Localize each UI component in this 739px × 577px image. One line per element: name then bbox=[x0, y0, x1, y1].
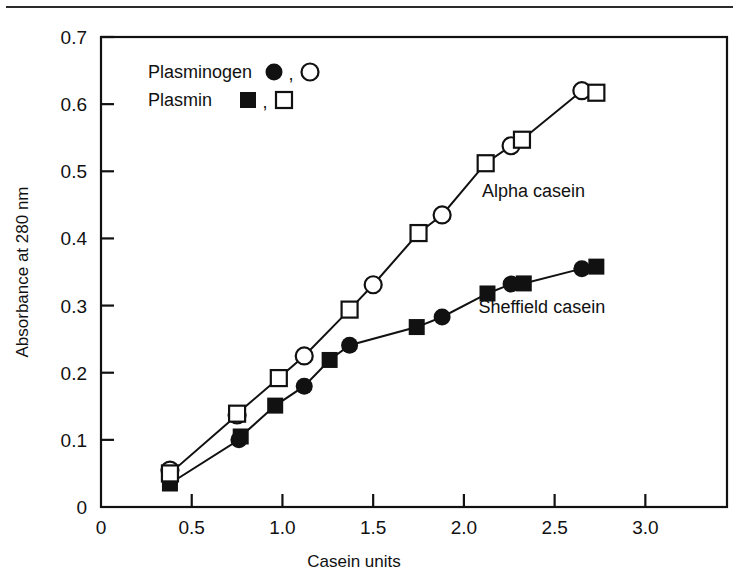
legend-label: Plasmin bbox=[148, 90, 212, 110]
legend-separator: , bbox=[288, 64, 293, 84]
y-tick-label: 0.5 bbox=[61, 161, 87, 182]
data-point bbox=[409, 319, 425, 335]
y-tick-label: 0.7 bbox=[61, 27, 87, 48]
legend-marker-open-square bbox=[276, 92, 292, 108]
series-markers-open-square bbox=[162, 85, 604, 482]
figure-container: 00.10.20.30.40.50.60.700.51.01.52.02.53.… bbox=[0, 0, 739, 577]
data-point bbox=[588, 85, 604, 101]
x-tick-label: 2.5 bbox=[541, 517, 567, 538]
y-tick-label: 0.2 bbox=[61, 363, 87, 384]
chart-annotation: Alpha casein bbox=[482, 181, 585, 201]
data-point bbox=[573, 260, 590, 277]
legend-marker-open-circle bbox=[302, 64, 319, 81]
series-markers-filled-circle bbox=[161, 260, 590, 489]
legend-marker-filled-square bbox=[240, 92, 256, 108]
data-point bbox=[365, 276, 382, 293]
data-point bbox=[296, 347, 313, 364]
x-tick-label: 2.0 bbox=[451, 517, 477, 538]
x-tick-label: 1.0 bbox=[269, 517, 295, 538]
y-axis-title: Absorbance at 280 nm bbox=[13, 186, 32, 357]
data-point bbox=[296, 378, 313, 395]
chart-annotation: Sheffield casein bbox=[478, 297, 605, 317]
chart-canvas: 00.10.20.30.40.50.60.700.51.01.52.02.53.… bbox=[0, 0, 739, 577]
legend-entry: Plasminogen, bbox=[148, 62, 319, 84]
data-point bbox=[434, 206, 451, 223]
legend-marker-filled-circle bbox=[266, 64, 283, 81]
data-point bbox=[516, 275, 532, 291]
x-tick-label: 0.5 bbox=[179, 517, 205, 538]
data-point bbox=[229, 406, 245, 422]
legend-separator: , bbox=[262, 92, 267, 112]
y-tick-label: 0.1 bbox=[61, 430, 87, 451]
y-tick-label: 0.6 bbox=[61, 94, 87, 115]
x-axis-title: Casein units bbox=[307, 552, 401, 571]
data-point bbox=[588, 259, 604, 275]
y-tick-label: 0.3 bbox=[61, 296, 87, 317]
data-point bbox=[322, 352, 338, 368]
y-tick-label: 0.4 bbox=[61, 228, 88, 249]
data-point bbox=[514, 132, 530, 148]
data-point bbox=[478, 155, 494, 171]
legend-entry: Plasmin, bbox=[148, 90, 292, 112]
x-tick-label: 0 bbox=[96, 517, 107, 538]
data-point bbox=[341, 337, 358, 354]
data-point bbox=[342, 302, 358, 318]
data-point bbox=[233, 429, 249, 445]
data-point bbox=[271, 370, 287, 386]
x-tick-label: 1.5 bbox=[360, 517, 386, 538]
data-point bbox=[434, 308, 451, 325]
y-tick-label: 0 bbox=[76, 497, 87, 518]
data-point bbox=[162, 465, 178, 481]
x-tick-label: 3.0 bbox=[632, 517, 658, 538]
legend-label: Plasminogen bbox=[148, 62, 252, 82]
data-point bbox=[267, 398, 283, 414]
series-markers-filled-square bbox=[162, 259, 604, 492]
data-point bbox=[411, 225, 427, 241]
